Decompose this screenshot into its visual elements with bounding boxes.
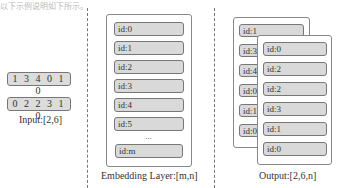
embedding-item-m: id:m	[115, 144, 183, 158]
output-front-item-2: id:2	[263, 82, 327, 96]
embedding-item-4: id:4	[114, 98, 184, 112]
embedding-item-3: id:3	[114, 79, 184, 93]
output-front-item-3: id:3	[263, 102, 327, 116]
input-row-1: 0 2 2 3 1 0	[7, 97, 71, 111]
embedding-item-2: id:2	[114, 60, 184, 74]
separator-left	[87, 8, 88, 188]
embedding-caption: Embedding Layer:[m,n]	[101, 170, 198, 181]
output-front-item-1: id:2	[263, 62, 327, 76]
embedding-item-0: id:0	[114, 22, 184, 36]
input-row-0: 1 3 4 0 1 0	[7, 72, 71, 86]
output-front-item-4: id:1	[263, 122, 327, 136]
embedding-item-1: id:1	[114, 41, 184, 55]
separator-right	[214, 8, 215, 188]
output-caption: Output:[2,6,n]	[259, 170, 316, 181]
output-front-item-5: id:0	[263, 142, 327, 156]
embedding-item-5: id:5	[114, 117, 184, 131]
embedding-ellipsis: ...	[145, 131, 152, 141]
output-front-item-0: id:0	[263, 42, 327, 56]
input-caption: Input:[2,6]	[19, 114, 62, 125]
header-text: 以下示例说明如下所示。	[0, 0, 88, 11]
